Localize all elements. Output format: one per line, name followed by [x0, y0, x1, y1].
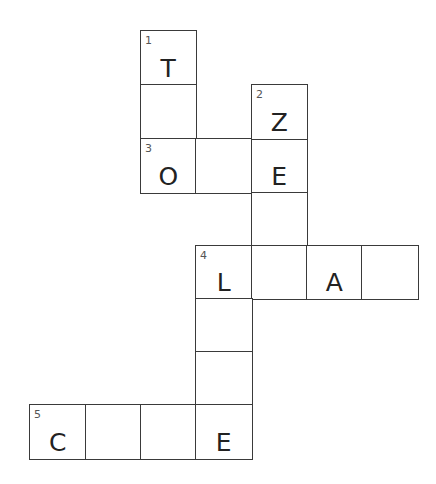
crossword-cell[interactable]: [195, 351, 253, 406]
cell-letter: T: [141, 56, 196, 81]
cell-letter: E: [252, 164, 307, 189]
crossword-cell[interactable]: [195, 138, 253, 194]
crossword-cell[interactable]: 3O: [140, 138, 197, 194]
crossword-cell[interactable]: [251, 192, 308, 247]
crossword-cell[interactable]: 1T: [140, 30, 197, 86]
crossword-cell[interactable]: 5C: [29, 404, 87, 460]
crossword-cell[interactable]: [251, 245, 308, 300]
crossword-cell[interactable]: E: [251, 138, 308, 194]
clue-number: 1: [145, 35, 152, 46]
cell-letter: Z: [252, 110, 307, 135]
crossword-cell[interactable]: [140, 404, 197, 460]
crossword-cell[interactable]: A: [306, 245, 363, 300]
cell-letter: L: [196, 270, 252, 295]
crossword-cell[interactable]: [195, 298, 253, 353]
cell-letter: E: [196, 430, 252, 455]
crossword-cell[interactable]: 2Z: [251, 84, 308, 140]
cell-letter: O: [141, 164, 196, 189]
clue-number: 5: [34, 409, 41, 420]
cell-letter: C: [30, 430, 86, 455]
crossword-cell[interactable]: 4L: [195, 245, 253, 300]
cell-letter: A: [307, 270, 362, 295]
clue-number: 2: [256, 89, 263, 100]
crossword-cell[interactable]: [361, 245, 419, 300]
clue-number: 4: [200, 250, 207, 261]
crossword-grid: 1T3OE2Z4LA5CE: [0, 0, 436, 484]
crossword-cell[interactable]: [85, 404, 142, 460]
crossword-cell[interactable]: E: [195, 404, 253, 460]
clue-number: 3: [145, 143, 152, 154]
crossword-cell[interactable]: [140, 84, 197, 140]
